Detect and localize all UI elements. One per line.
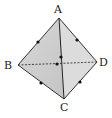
vertex-label-a: A [53, 3, 63, 16]
midpoint-bd [55, 62, 58, 65]
vertex-label-d: D [99, 56, 108, 69]
vertex-label-c: C [60, 101, 68, 114]
midpoint-cd [78, 80, 81, 83]
midpoint-bc [39, 81, 42, 84]
tetrahedron-diagram: A B C D [0, 0, 112, 118]
face-acd [59, 18, 97, 99]
midpoint-ad [75, 38, 78, 41]
vertex-label-b: B [4, 59, 12, 72]
midpoint-ab [36, 40, 39, 43]
face-abc [18, 18, 64, 99]
midpoint-ac [59, 55, 62, 58]
